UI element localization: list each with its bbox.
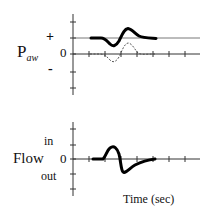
flow-chart — [70, 122, 200, 196]
paw-chart — [70, 14, 200, 95]
chart-canvas — [0, 0, 208, 211]
paw-plus-label: + — [46, 29, 54, 45]
paw-solid-series — [91, 29, 156, 46]
paw-minus-label: - — [48, 61, 53, 77]
paw-ylabel: Paw — [17, 42, 38, 63]
flow-out-label: out — [41, 169, 56, 184]
flow-ylabel: Flow — [13, 150, 44, 167]
paw-zero-label: 0 — [60, 45, 67, 61]
paw-ylabel-sub: aw — [26, 52, 38, 63]
paw-dashed-series — [90, 43, 155, 62]
x-axis-label: Time (sec) — [123, 192, 174, 207]
flow-zero-label: 0 — [60, 151, 67, 167]
flow-series — [93, 147, 155, 173]
flow-in-label: in — [44, 134, 53, 149]
